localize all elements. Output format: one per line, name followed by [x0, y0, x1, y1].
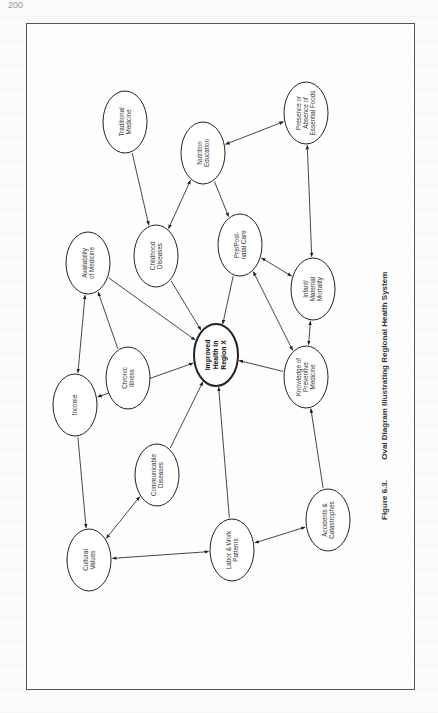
- edge-income-to-availability: [78, 295, 85, 373]
- node-improved: ImprovedHealth inRegion X: [194, 324, 238, 386]
- node-nutrition: NutritionEducation: [181, 122, 225, 184]
- node-label: ImprovedHealth inRegion X: [204, 340, 228, 371]
- node-traditional: TraditionalMedicine: [103, 91, 147, 153]
- node-childhood: ChildhoodDiseases: [134, 225, 178, 287]
- node-presence: Presence orAbsence ofEssential Foods: [284, 82, 328, 144]
- edge-labor-to-improved: [219, 387, 230, 517]
- node-label: NutritionEducation: [196, 139, 210, 168]
- node-label: CulturalValues: [82, 549, 96, 571]
- edge-presence-to-infant: [307, 145, 311, 256]
- edge-prepost-to-improved: [223, 276, 233, 324]
- node-prepost: Pre/Post-natal Care: [218, 214, 262, 276]
- figure-caption: Figure 6.3. Oval Diagram Illustrating Re…: [380, 272, 389, 520]
- node-availability: Availabilityof Medicine: [66, 232, 110, 294]
- edge-traditional-to-childhood: [132, 153, 149, 225]
- node-labor: Labor & WorkPatterns: [210, 519, 254, 581]
- node-infant: Infant/MaternalMortality: [291, 258, 335, 320]
- oval-diagram: TraditionalMedicineNutritionEducationPre…: [0, 0, 438, 713]
- node-cultural: CulturalValues: [67, 529, 111, 591]
- figure-number: Figure 6.3.: [380, 480, 389, 520]
- edge-communicable-to-cultural: [106, 497, 139, 539]
- edge-knowledge-to-prepost: [253, 272, 292, 351]
- node-label: TraditionalMedicine: [118, 107, 132, 136]
- node-label: Income: [71, 394, 78, 415]
- edge-labor-to-accidents: [255, 527, 305, 543]
- node-label: Accidents &Catastrophes: [321, 501, 336, 538]
- node-label: Presence orAbsence ofEssential Foods: [295, 91, 316, 136]
- edge-knowledge-to-infant: [309, 321, 311, 344]
- edge-prepost-to-infant: [262, 258, 292, 276]
- node-knowledge: Knowledge ofPreventiveMedicine: [284, 346, 328, 408]
- edge-nutrition-to-childhood: [169, 180, 191, 228]
- node-communicable: CommunicableDiseases: [135, 444, 179, 506]
- node-label: Pre/Post-natal Care: [233, 230, 247, 260]
- figure-title: Oval Diagram Illustrating Regional Healt…: [380, 272, 389, 460]
- node-chronic: ChronicIllness: [106, 347, 150, 409]
- edge-communicable-to-improved: [170, 382, 203, 448]
- node-income: Income: [53, 374, 97, 436]
- node-accidents: Accidents &Catastrophes: [306, 489, 350, 551]
- edge-nutrition-to-presence: [226, 122, 284, 144]
- edge-chronic-to-availability: [98, 292, 118, 348]
- node-label: Availabilityof Medicine: [81, 246, 95, 279]
- node-label: ChildhoodDiseases: [149, 241, 163, 270]
- nodes-layer: TraditionalMedicineNutritionEducationPre…: [53, 82, 350, 591]
- edge-nutrition-to-prepost: [214, 181, 228, 216]
- node-label: ChronicIllness: [121, 367, 135, 389]
- edge-availability-to-improved: [109, 278, 195, 340]
- edge-accidents-to-knowledge: [311, 409, 323, 488]
- edge-income-to-cultural: [78, 437, 86, 528]
- edge-cultural-to-labor: [112, 552, 208, 559]
- edge-knowledge-to-improved: [239, 361, 283, 372]
- edge-childhood-to-improved: [171, 281, 201, 330]
